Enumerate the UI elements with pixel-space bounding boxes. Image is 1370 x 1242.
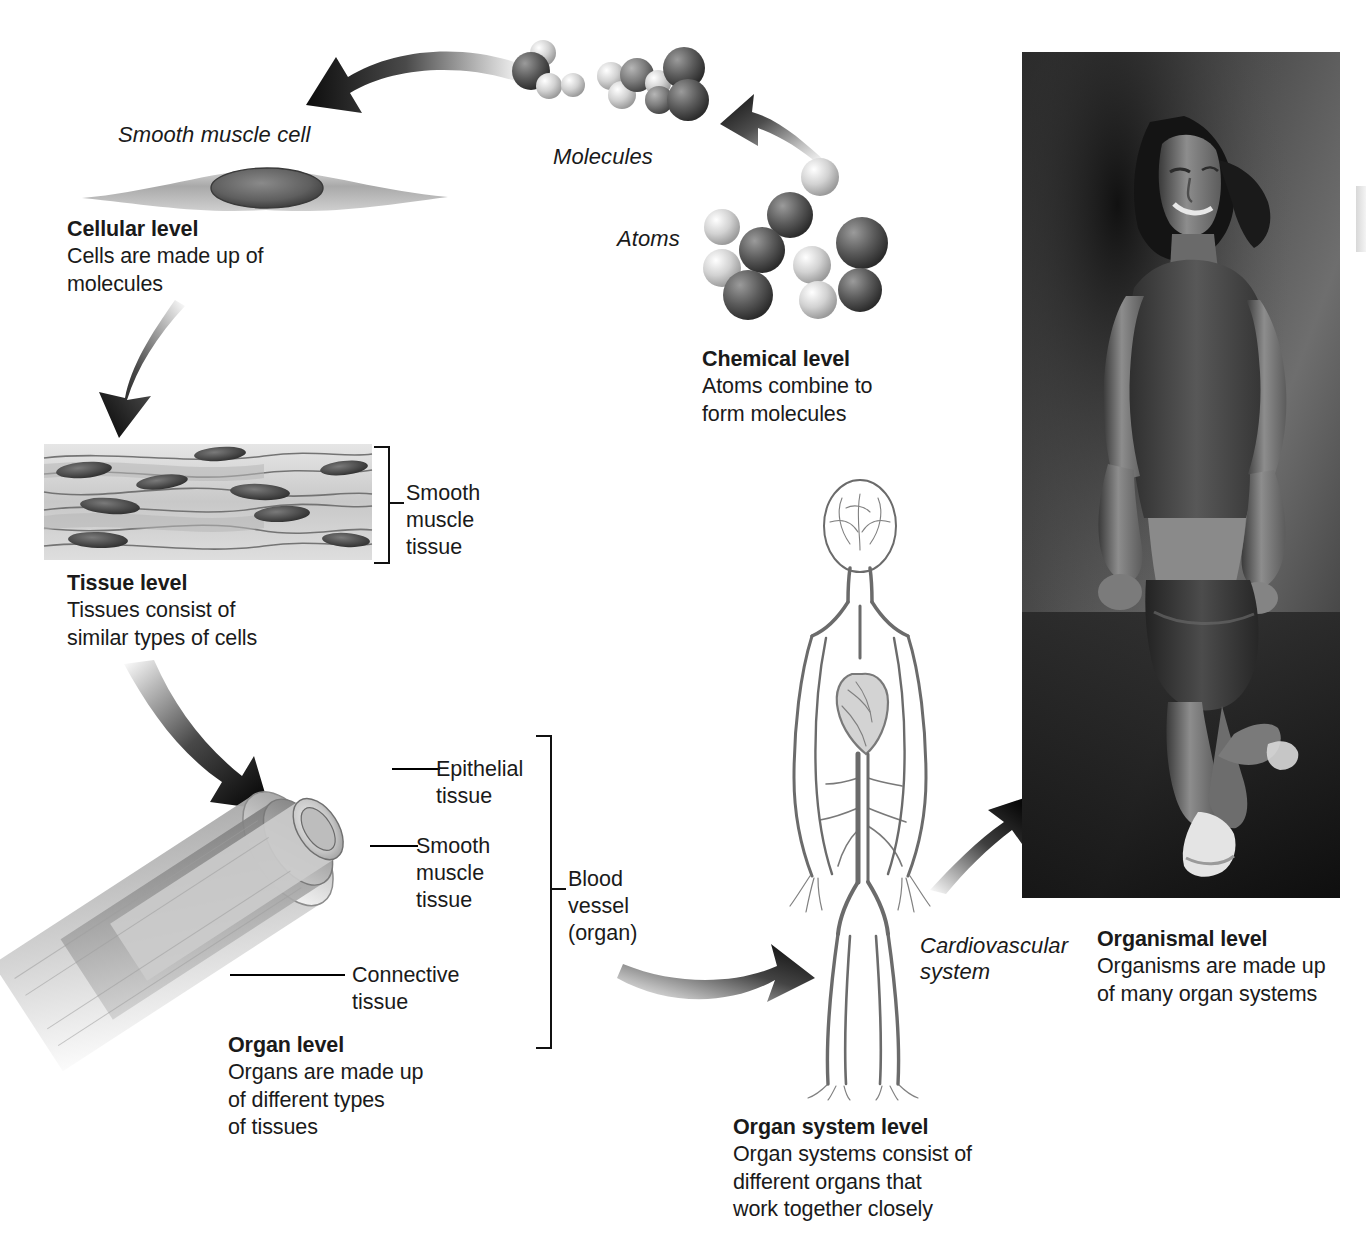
callout-connective-tissue: Connective tissue: [352, 962, 512, 1016]
atoms-label: Atoms: [617, 226, 680, 252]
caption-organ-level: Organ level Organs are made up of differ…: [228, 1032, 548, 1141]
smooth-muscle-tissue-bracket-stem: [388, 502, 404, 504]
figure-canvas: Smooth muscle cell Cellular level Cells …: [0, 0, 1370, 1242]
organismal-level-heading: Organismal level: [1097, 926, 1367, 953]
blood-vessel-line-2: vessel: [568, 894, 629, 918]
tissue-level-heading: Tissue level: [67, 570, 407, 597]
callout-smooth-muscle-tissue: Smooth muscle tissue: [406, 480, 536, 561]
chemical-level-line-2: form molecules: [702, 401, 1002, 428]
blood-vessel-bracket: [536, 735, 552, 1049]
tissue-level-line-1: Tissues consist of: [67, 597, 407, 624]
chemical-level-line-1: Atoms combine to: [702, 373, 1002, 400]
vessel-smooth-muscle-line-2: muscle: [416, 861, 484, 885]
cardiovascular-system-label: Cardiovascular system: [920, 933, 1110, 986]
caption-organismal-level: Organismal level Organisms are made up o…: [1097, 926, 1367, 1008]
blood-vessel-bracket-stem: [550, 888, 566, 890]
caption-chemical-level: Chemical level Atoms combine to form mol…: [702, 346, 1002, 428]
cellular-level-heading: Cellular level: [67, 216, 397, 243]
smooth-muscle-cell-illustration: [80, 158, 450, 220]
atoms-illustration: [700, 155, 900, 325]
caption-organ-system-level: Organ system level Organ systems consist…: [733, 1114, 1083, 1223]
vessel-smooth-muscle-line-1: Smooth: [416, 834, 490, 858]
connective-tissue-line-2: tissue: [352, 990, 408, 1014]
organ-level-heading: Organ level: [228, 1032, 548, 1059]
page-edge-artifact: [1356, 186, 1366, 252]
organ-system-level-heading: Organ system level: [733, 1114, 1083, 1141]
chemical-level-heading: Chemical level: [702, 346, 1002, 373]
cardiovascular-system-illustration: [760, 478, 960, 1098]
epithelial-tissue-line-2: tissue: [436, 784, 492, 808]
smooth-muscle-tissue-micrograph: [44, 444, 372, 560]
smooth-muscle-cell-label: Smooth muscle cell: [118, 122, 311, 148]
organ-level-line-2: of different types: [228, 1087, 548, 1114]
organismal-level-line-1: Organisms are made up: [1097, 953, 1367, 980]
cardiovascular-system-line-2: system: [920, 959, 990, 984]
molecules-illustration: [518, 38, 738, 150]
smooth-muscle-tissue-bracket: [374, 446, 390, 564]
cardiovascular-system-line-1: Cardiovascular: [920, 933, 1068, 958]
cellular-level-line-2: molecules: [67, 271, 397, 298]
callout-vessel-smooth-muscle-tissue: Smooth muscle tissue: [416, 833, 556, 914]
caption-cellular-level: Cellular level Cells are made up of mole…: [67, 216, 397, 298]
connective-tissue-line-1: Connective: [352, 963, 460, 987]
arrow-cell-to-tissue: [85, 300, 245, 440]
epithelial-tissue-line-1: Epithelial: [436, 757, 523, 781]
vessel-smooth-muscle-line-3: tissue: [416, 888, 472, 912]
organ-level-line-3: of tissues: [228, 1114, 548, 1141]
organ-level-line-1: Organs are made up: [228, 1059, 548, 1086]
smooth-muscle-tissue-line-3: tissue: [406, 535, 462, 559]
leader-vessel-smooth-muscle: [370, 845, 418, 847]
arrow-atoms-to-molecules: [718, 92, 828, 164]
smooth-muscle-tissue-line-1: Smooth: [406, 481, 480, 505]
organism-photo-runner: [1022, 52, 1340, 898]
smooth-muscle-tissue-line-2: muscle: [406, 508, 474, 532]
organ-system-level-line-1: Organ systems consist of: [733, 1141, 1083, 1168]
arrow-molecules-to-cell: [300, 35, 530, 145]
organ-system-level-line-3: work together closely: [733, 1196, 1083, 1223]
leader-connective-tissue: [230, 974, 345, 976]
organ-system-level-line-2: different organs that: [733, 1169, 1083, 1196]
leader-epithelial-tissue: [392, 768, 440, 770]
blood-vessel-line-1: Blood: [568, 867, 623, 891]
tissue-level-line-2: similar types of cells: [67, 625, 407, 652]
organismal-level-line-2: of many organ systems: [1097, 981, 1367, 1008]
caption-tissue-level: Tissue level Tissues consist of similar …: [67, 570, 407, 652]
callout-epithelial-tissue: Epithelial tissue: [436, 756, 576, 810]
molecules-label: Molecules: [553, 144, 653, 170]
cellular-level-line-1: Cells are made up of: [67, 243, 397, 270]
